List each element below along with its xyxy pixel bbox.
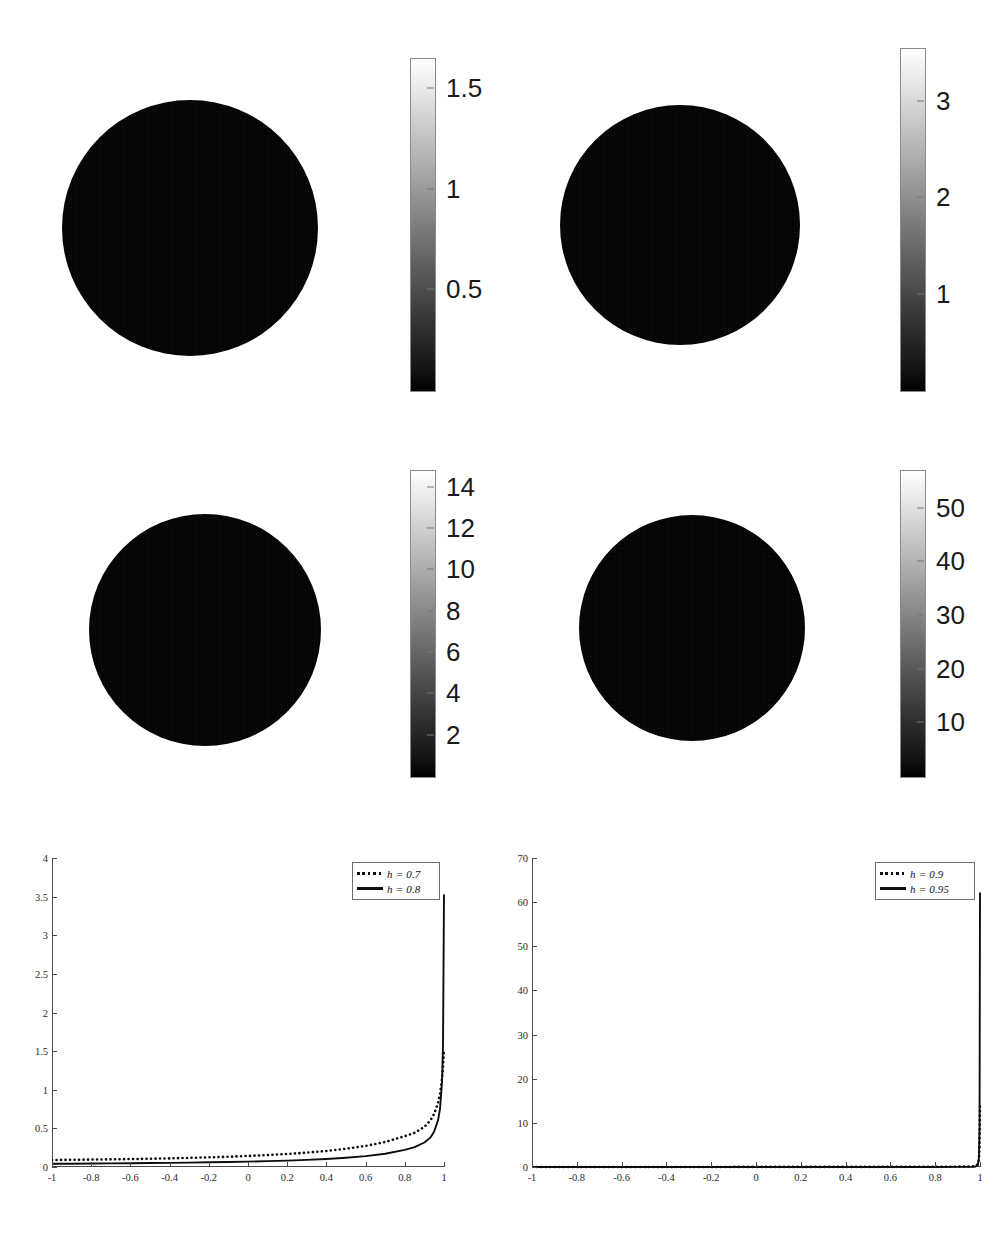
colorbar-gradient [900, 470, 926, 778]
x-tick-label: 0 [753, 1172, 758, 1183]
colorbar-tick-label: 50 [936, 492, 965, 523]
x-tickmark [366, 1162, 367, 1167]
curve-h-0-7 [52, 1050, 444, 1160]
x-tickmark [130, 1162, 131, 1167]
y-tick-label: 3 [18, 930, 48, 941]
x-tickmark [622, 1162, 623, 1167]
legend-item-label: h = 0.9 [910, 868, 944, 880]
plot-curves [52, 858, 448, 1171]
x-tickmark [935, 1162, 936, 1167]
x-tickmark [756, 1162, 757, 1167]
x-tickmark [91, 1162, 92, 1167]
colorbar-tickmark [427, 289, 434, 290]
colorbar-gradient [410, 470, 436, 778]
colorbar-tickmark [427, 569, 434, 570]
colorbar-panel-b: 321 [900, 48, 992, 390]
colorbar-tickmark [427, 88, 434, 89]
legend-item: h = 0.95 [880, 881, 969, 896]
x-tick-label: -0.8 [83, 1172, 100, 1183]
colorbar-tickmark [427, 486, 434, 487]
y-tickmark [52, 1167, 57, 1168]
x-tick-label: 0.8 [929, 1172, 942, 1183]
x-tickmark [444, 1162, 445, 1167]
legend-item: h = 0.9 [880, 866, 969, 881]
x-tick-label: -0.2 [200, 1172, 217, 1183]
y-tickmark [52, 1090, 57, 1091]
x-tickmark [801, 1162, 802, 1167]
sphere-image-h-0-95 [579, 515, 805, 741]
figure-root: 1.510.5 321 1412108642 5040302010 00.511… [0, 0, 992, 1243]
y-tickmark [532, 1035, 537, 1036]
y-tickmark [532, 990, 537, 991]
colorbar-tickmark [427, 188, 434, 189]
colorbar-tickmark [427, 610, 434, 611]
x-tick-label: -0.8 [568, 1172, 585, 1183]
colorbar-tick-label: 8 [446, 595, 460, 626]
y-tick-label: 40 [498, 985, 528, 996]
y-tick-label: 70 [498, 853, 528, 864]
y-tickmark [532, 1079, 537, 1080]
colorbar-tick-label: 1 [446, 173, 460, 204]
x-tick-label: 0.6 [884, 1172, 897, 1183]
x-tick-label: -1 [528, 1172, 537, 1183]
y-tickmark [52, 897, 57, 898]
y-tickmark [532, 946, 537, 947]
sphere-noise-texture [579, 515, 805, 741]
x-tickmark [711, 1162, 712, 1167]
x-tick-label: 0.6 [359, 1172, 372, 1183]
colorbar-tick-label: 6 [446, 636, 460, 667]
y-tick-label: 1.5 [18, 1046, 48, 1057]
sphere-noise-texture [62, 100, 318, 356]
curve-h-0-95 [532, 893, 980, 1167]
colorbar-tickmark [917, 668, 924, 669]
x-tick-label: 0.4 [320, 1172, 333, 1183]
sphere-image-h-0-8 [560, 105, 800, 345]
colorbar-tickmark [917, 722, 924, 723]
x-tickmark [890, 1162, 891, 1167]
x-tickmark [846, 1162, 847, 1167]
colorbar-tickmark [427, 527, 434, 528]
legend-line-sample-solid [880, 883, 906, 894]
x-tick-label: -0.2 [703, 1172, 720, 1183]
x-tick-label: -0.6 [122, 1172, 139, 1183]
colorbar-tickmark [427, 693, 434, 694]
line-plot-right: 010203040506070-1-0.8-0.6-0.4-0.200.20.4… [532, 858, 980, 1193]
curve-h-0-9 [532, 1105, 980, 1167]
x-tick-label: 1 [441, 1172, 446, 1183]
legend-item-label: h = 0.95 [910, 883, 949, 895]
sphere-image-h-0-9 [89, 514, 321, 746]
colorbar-tick-label: 1.5 [446, 73, 482, 104]
y-tickmark [532, 1123, 537, 1124]
colorbar-tickmark [427, 734, 434, 735]
x-tickmark [170, 1162, 171, 1167]
plot-curves [532, 858, 984, 1171]
x-tick-label: 0.4 [839, 1172, 852, 1183]
legend-line-sample-dotted [357, 868, 383, 879]
sphere-noise-texture [89, 514, 321, 746]
x-tick-label: 0 [245, 1172, 250, 1183]
y-tickmark [532, 902, 537, 903]
colorbar-ticks: 5040302010 [924, 470, 992, 776]
colorbar-tick-label: 30 [936, 599, 965, 630]
y-tickmark [532, 1167, 537, 1168]
colorbar-tick-label: 2 [936, 182, 950, 213]
colorbar-tick-label: 20 [936, 653, 965, 684]
x-tickmark [287, 1162, 288, 1167]
x-tickmark [248, 1162, 249, 1167]
y-tickmark [52, 1013, 57, 1014]
legend-line-sample-solid [357, 883, 383, 894]
y-tick-label: 20 [498, 1073, 528, 1084]
x-tick-label: -0.4 [658, 1172, 675, 1183]
legend-item-label: h = 0.7 [387, 868, 421, 880]
x-tick-label: -0.6 [613, 1172, 630, 1183]
y-tickmark [532, 858, 537, 859]
x-tick-label: 0.2 [794, 1172, 807, 1183]
colorbar-tickmark [917, 100, 924, 101]
colorbar-tickmark [427, 651, 434, 652]
y-tick-label: 0.5 [18, 1123, 48, 1134]
y-tickmark [52, 974, 57, 975]
x-tickmark [577, 1162, 578, 1167]
x-tickmark [980, 1162, 981, 1167]
colorbar-ticks: 1.510.5 [434, 58, 524, 390]
colorbar-tick-label: 1 [936, 278, 950, 309]
